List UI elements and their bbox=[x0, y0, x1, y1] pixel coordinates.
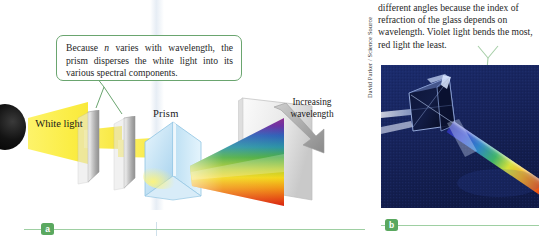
figure-root: Prism White light Increasing wavelength bbox=[0, 0, 545, 246]
panel-badge-b: b bbox=[385, 219, 398, 231]
photo-credit: David Parker / Science Source bbox=[366, 0, 373, 98]
prism-dispersion-photograph bbox=[381, 65, 539, 208]
panel-b-rule bbox=[381, 225, 539, 226]
panel-b-body-text: different angles because the index of re… bbox=[378, 2, 541, 51]
panel-b-photo: different angles because the index of re… bbox=[0, 0, 545, 246]
photo-content bbox=[381, 65, 539, 208]
